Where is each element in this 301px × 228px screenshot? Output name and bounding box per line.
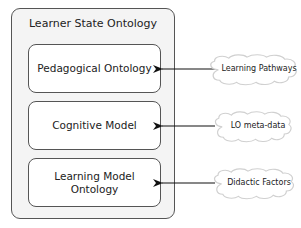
cloud-lo-meta-data: LO meta-data [222,121,294,130]
cloud-didactic-factors: Didactic Factors [220,178,298,187]
diagram-connectors [0,0,301,228]
cloud-learning-pathways: Learning Pathways [218,64,300,73]
